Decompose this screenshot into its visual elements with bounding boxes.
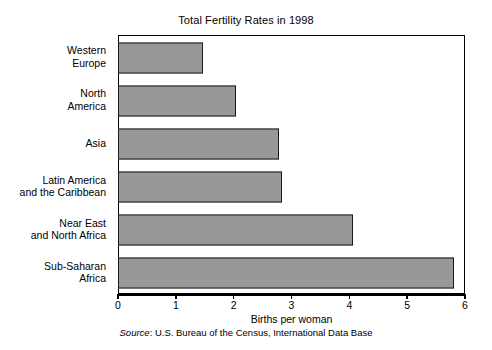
x-axis-tick-label: 1	[161, 299, 191, 312]
bar	[118, 258, 454, 289]
x-axis-title: Births per woman	[118, 313, 465, 326]
bar	[118, 42, 203, 73]
bar	[118, 128, 279, 159]
fertility-rates-bar-chart: Total Fertility Rates in 1998 Western Eu…	[0, 0, 492, 350]
category-label: Sub-Saharan Africa	[0, 260, 112, 285]
bar	[118, 172, 282, 203]
category-label: Near East and North Africa	[0, 217, 112, 242]
bar-row	[119, 252, 464, 295]
bar-row	[119, 79, 464, 122]
category-label: Latin America and the Caribbean	[0, 174, 112, 199]
x-axis-tick-label: 3	[277, 299, 307, 312]
bar-row	[119, 36, 464, 79]
bar-row	[119, 209, 464, 252]
x-axis-tick-label: 2	[219, 299, 249, 312]
category-axis-labels: Western EuropeNorth AmericaAsiaLatin Ame…	[0, 35, 112, 294]
x-axis-tick-label: 4	[334, 299, 364, 312]
category-label: North America	[0, 87, 112, 112]
x-axis-tick-label: 5	[392, 299, 422, 312]
category-label: Western Europe	[0, 44, 112, 69]
bars-layer	[119, 36, 464, 293]
bar	[118, 215, 353, 246]
bar-row	[119, 122, 464, 165]
source-text: U.S. Bureau of the Census, International…	[155, 327, 373, 338]
source-note: Source: U.S. Bureau of the Census, Inter…	[0, 327, 492, 339]
x-axis-tick-label: 0	[103, 299, 133, 312]
bar-row	[119, 165, 464, 208]
bar	[118, 85, 236, 116]
x-axis-tick-label: 6	[450, 299, 480, 312]
chart-title: Total Fertility Rates in 1998	[0, 14, 492, 27]
source-label: Source	[120, 327, 150, 338]
category-label: Asia	[0, 137, 112, 150]
plot-area	[118, 35, 465, 294]
